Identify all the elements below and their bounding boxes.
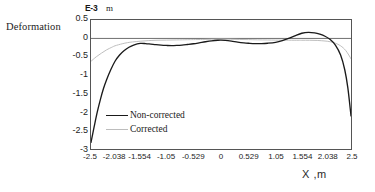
x-axis-tick-label: -1.05 [157, 152, 175, 161]
x-axis-title: X ,m [302, 168, 327, 180]
x-axis-tick-label: 0 [219, 152, 223, 161]
legend-swatch-icon [106, 115, 128, 116]
legend-item-label: Non-corrected [130, 110, 185, 120]
y-axis-tick-label: -1.5 [58, 88, 88, 98]
x-axis-tick-label: 2.5 [346, 152, 357, 161]
y-axis-tick-label: -0.5 [58, 50, 88, 60]
legend-swatch-icon [106, 129, 128, 130]
series-line-corrected [91, 39, 351, 61]
x-axis-tick-label: 0.529 [239, 152, 259, 161]
chart-container: Deformation E-3 m 0.50-0.5-1-1.5-2-2.5-3… [0, 0, 375, 192]
x-axis-tick-label: -1.554 [128, 152, 151, 161]
legend: Non-correctedCorrected [106, 108, 185, 136]
y-axis-title: Deformation [6, 21, 61, 32]
y-axis-unit: m [106, 3, 113, 13]
x-axis-tick-label: -0.529 [182, 152, 205, 161]
x-axis-tick-label: -2.5 [83, 152, 97, 161]
y-axis-tick-label: -1 [58, 69, 88, 79]
y-axis-tick-label: 0 [58, 32, 88, 42]
x-axis-tick-labels: -2.5-2.038-1.554-1.05-0.52900.5291.051.5… [0, 152, 375, 166]
y-axis-tick-label: -2 [58, 107, 88, 117]
legend-item[interactable]: Corrected [106, 122, 185, 136]
x-axis-tick-label: 1.554 [292, 152, 312, 161]
x-axis-tick-label: 1.05 [268, 152, 284, 161]
legend-item-label: Corrected [130, 124, 167, 134]
x-axis-tick-label: -2.038 [103, 152, 126, 161]
legend-item[interactable]: Non-corrected [106, 108, 185, 122]
y-axis-tick-label: -2.5 [58, 125, 88, 135]
y-axis-tick-label: 0.5 [58, 13, 88, 23]
x-axis-tick-label: 2.038 [318, 152, 338, 161]
